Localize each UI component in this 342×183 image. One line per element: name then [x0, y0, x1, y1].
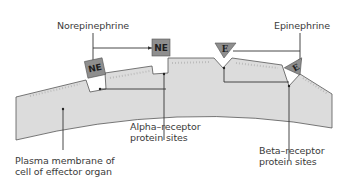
arrowhead-ne-2 — [148, 46, 152, 49]
e-molecule-1: E — [215, 43, 236, 58]
ne-molecule-2: NE — [152, 39, 170, 56]
beta-receptor-label: Beta–receptor protein sites — [259, 145, 324, 167]
beta-site-dot-1 — [223, 67, 225, 69]
beta-label-line-2: protein sites — [259, 156, 324, 167]
norepinephrine-pointer — [93, 33, 152, 61]
alpha-receptor-label: Alpha–receptor protein sites — [130, 121, 200, 143]
plasma-membrane-label: Plasma membrane of cell of effector orga… — [15, 155, 115, 177]
membrane-label-line-2: cell of effector organ — [15, 166, 115, 177]
norepinephrine-label: Norepinephrine — [57, 20, 129, 31]
epinephrine-pointer — [233, 33, 300, 62]
alpha-label-line-2: protein sites — [130, 132, 200, 143]
alpha-site-dot-2 — [163, 73, 165, 75]
membrane-label-line-1: Plasma membrane of — [15, 155, 115, 166]
beta-site-dot-2 — [288, 85, 290, 87]
beta-label-line-1: Beta–receptor — [259, 145, 324, 156]
alpha-label-line-1: Alpha–receptor — [130, 121, 200, 132]
e-label-1: E — [222, 44, 229, 54]
membrane-pointer-dot — [62, 108, 64, 110]
epinephrine-label: Epinephrine — [274, 20, 330, 31]
epinephrine-text: Epinephrine — [274, 20, 330, 31]
ne-label-2: NE — [154, 43, 168, 53]
ne-molecule-1: NE — [84, 58, 105, 78]
e-molecule-2: E — [284, 58, 308, 80]
alpha-site-dot-1 — [99, 88, 101, 90]
norepinephrine-text: Norepinephrine — [57, 20, 129, 31]
